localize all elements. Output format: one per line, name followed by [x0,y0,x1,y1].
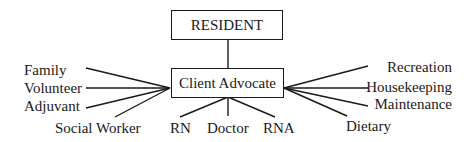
recreation-label: Recreation [387,59,452,75]
resident-node: RESIDENT [171,10,283,40]
social-worker-label: Social Worker [55,120,141,136]
housekeeping-label: Housekeeping [366,79,452,95]
maintenance-label: Maintenance [375,96,452,112]
rna-label: RNA [263,120,295,136]
dietary-label: Dietary [346,118,391,134]
adjuvant-label: Adjuvant [24,98,80,114]
volunteer-label: Volunteer [24,80,82,96]
family-label: Family [24,62,67,78]
rn-label: RN [170,120,191,136]
client-advocate-node: Client Advocate [171,68,284,98]
doctor-label: Doctor [207,120,249,136]
